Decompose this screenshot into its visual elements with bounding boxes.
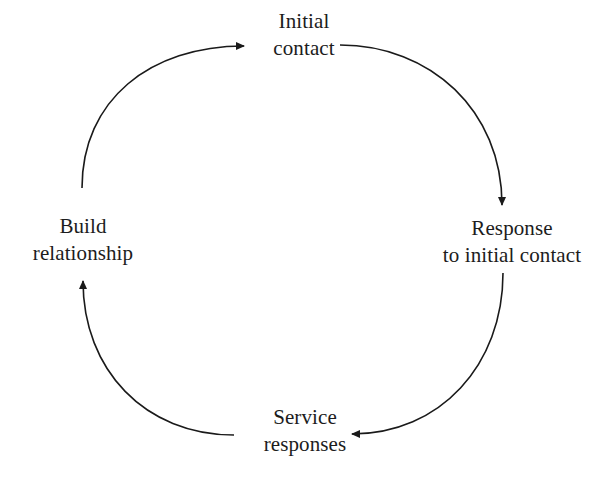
arrow-response-to-service bbox=[352, 273, 503, 434]
cycle-diagram: Initial contact Response to initial cont… bbox=[0, 0, 610, 480]
node-build-relationship: Build relationship bbox=[18, 213, 148, 267]
node-response-to-initial-contact: Response to initial contact bbox=[424, 215, 600, 269]
node-label-line: relationship bbox=[18, 240, 148, 267]
node-label-line: contact bbox=[248, 35, 360, 62]
arrow-initial-to-response bbox=[340, 45, 502, 205]
node-label-line: Response bbox=[424, 215, 600, 242]
arrow-build-to-initial bbox=[82, 46, 244, 188]
node-label-line: Initial bbox=[248, 8, 360, 35]
node-initial-contact: Initial contact bbox=[248, 8, 360, 62]
node-label-line: responses bbox=[244, 431, 366, 458]
node-label-line: to initial contact bbox=[424, 242, 600, 269]
node-service-responses: Service responses bbox=[244, 404, 366, 458]
arrow-service-to-build bbox=[83, 281, 234, 435]
node-label-line: Service bbox=[244, 404, 366, 431]
node-label-line: Build bbox=[18, 213, 148, 240]
